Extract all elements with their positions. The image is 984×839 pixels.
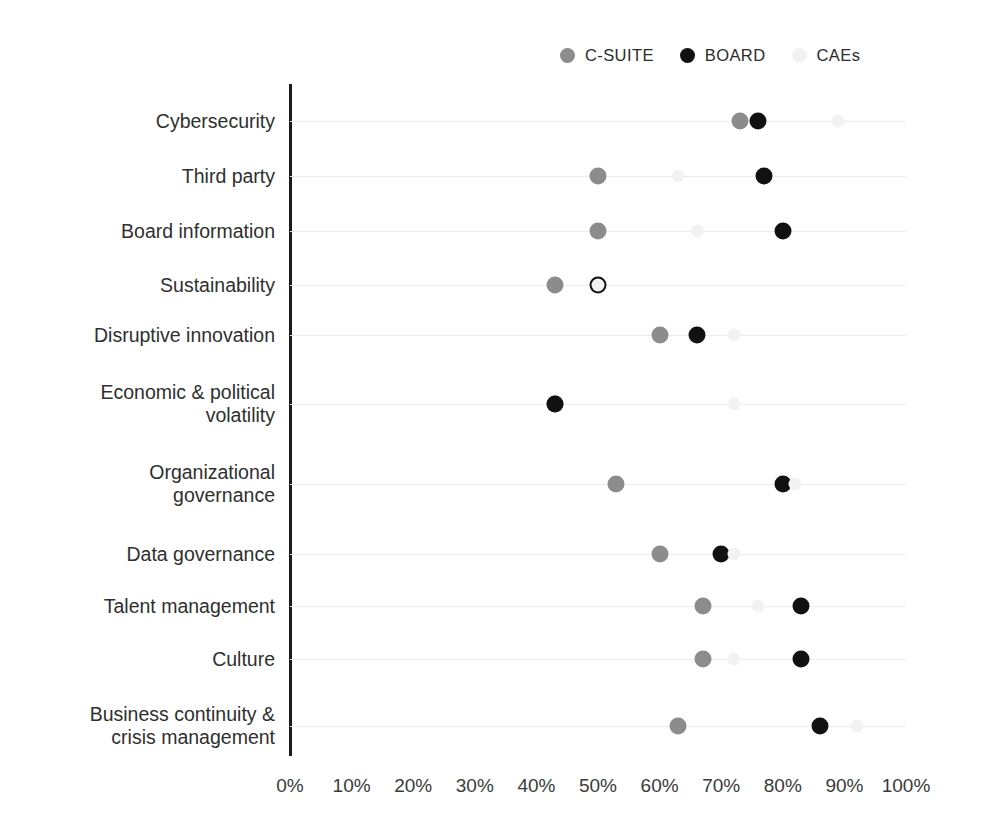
- legend-label-caes: CAEs: [817, 46, 861, 65]
- category-label: Data governance: [15, 543, 275, 566]
- row-gridline: [290, 335, 906, 336]
- data-point-board[interactable]: [774, 223, 791, 240]
- x-tick-label: 80%: [764, 775, 802, 797]
- data-point-caes[interactable]: [850, 720, 863, 733]
- row-gridline: [290, 121, 906, 122]
- data-point-board[interactable]: [811, 718, 828, 735]
- data-point-caes[interactable]: [789, 478, 802, 491]
- x-tick-label: 30%: [456, 775, 494, 797]
- data-point-caes[interactable]: [727, 329, 740, 342]
- data-point-caes[interactable]: [592, 279, 605, 292]
- data-point-caes[interactable]: [832, 115, 845, 128]
- x-tick-label: 40%: [517, 775, 555, 797]
- category-axis-labels: CybersecurityThird partyBoard informatio…: [10, 84, 275, 756]
- row-gridline: [290, 404, 906, 405]
- chart-legend: C-SUITE BOARD CAEs: [560, 40, 860, 70]
- data-point-caes[interactable]: [727, 653, 740, 666]
- data-point-board[interactable]: [793, 651, 810, 668]
- row-gridline: [290, 484, 906, 485]
- x-tick-label: 20%: [394, 775, 432, 797]
- category-label: Disruptive innovation: [15, 324, 275, 347]
- category-label: Organizational governance: [15, 461, 275, 507]
- data-point-c-suite[interactable]: [608, 476, 625, 493]
- row-gridline: [290, 659, 906, 660]
- category-label: Culture: [15, 648, 275, 671]
- x-tick-label: 100%: [882, 775, 931, 797]
- data-point-board[interactable]: [750, 113, 767, 130]
- dot-plot-chart: C-SUITE BOARD CAEs CybersecurityThird pa…: [0, 0, 984, 839]
- row-gridline: [290, 554, 906, 555]
- data-point-caes[interactable]: [727, 548, 740, 561]
- category-label: Cybersecurity: [15, 110, 275, 133]
- data-point-c-suite[interactable]: [651, 546, 668, 563]
- legend-label-c-suite: C-SUITE: [585, 46, 654, 65]
- x-tick-label: 60%: [641, 775, 679, 797]
- category-label: Sustainability: [15, 274, 275, 297]
- x-tick-label: 10%: [333, 775, 371, 797]
- data-point-c-suite[interactable]: [590, 168, 607, 185]
- x-tick-label: 50%: [579, 775, 617, 797]
- legend-item-caes[interactable]: CAEs: [792, 46, 861, 65]
- legend-swatch-board-icon: [680, 48, 695, 63]
- data-point-c-suite[interactable]: [731, 113, 748, 130]
- data-point-caes[interactable]: [672, 170, 685, 183]
- data-point-c-suite[interactable]: [651, 327, 668, 344]
- legend-swatch-c-suite-icon: [560, 48, 575, 63]
- category-label: Board information: [15, 220, 275, 243]
- data-point-caes[interactable]: [690, 225, 703, 238]
- category-label: Economic & political volatility: [15, 381, 275, 427]
- legend-item-board[interactable]: BOARD: [680, 46, 766, 65]
- x-tick-label: 90%: [825, 775, 863, 797]
- legend-swatch-caes-icon: [792, 48, 807, 63]
- data-point-board[interactable]: [793, 598, 810, 615]
- row-gridline: [290, 606, 906, 607]
- x-tick-label: 0%: [276, 775, 303, 797]
- data-point-board[interactable]: [546, 396, 563, 413]
- data-point-c-suite[interactable]: [694, 651, 711, 668]
- data-point-c-suite[interactable]: [670, 718, 687, 735]
- data-point-c-suite[interactable]: [694, 598, 711, 615]
- data-point-caes[interactable]: [752, 600, 765, 613]
- category-label: Talent management: [15, 595, 275, 618]
- category-label: Third party: [15, 165, 275, 188]
- data-point-caes[interactable]: [727, 398, 740, 411]
- category-label: Business continuity & crisis management: [15, 703, 275, 749]
- data-point-c-suite[interactable]: [546, 277, 563, 294]
- x-tick-label: 70%: [702, 775, 740, 797]
- data-point-c-suite[interactable]: [590, 223, 607, 240]
- x-axis-ticks: 0%10%20%30%40%50%60%70%80%90%100%: [290, 775, 906, 805]
- y-axis-line: [289, 84, 292, 756]
- legend-label-board: BOARD: [705, 46, 766, 65]
- legend-item-c-suite[interactable]: C-SUITE: [560, 46, 654, 65]
- data-point-board[interactable]: [688, 327, 705, 344]
- plot-area: [290, 84, 906, 756]
- data-point-board[interactable]: [756, 168, 773, 185]
